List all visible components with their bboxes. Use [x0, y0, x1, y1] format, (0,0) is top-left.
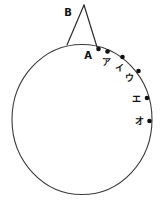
- point-A-dot: [96, 47, 101, 52]
- option-dot-e: [145, 96, 150, 101]
- triangle-right-side: [84, 5, 97, 47]
- apex-label: B: [64, 8, 72, 18]
- diagram-shapes: [0, 0, 168, 205]
- option-dot-o: [147, 119, 152, 124]
- option-dot-a: [105, 49, 110, 54]
- option-dot-u: [136, 69, 141, 74]
- contact-point-label: A: [84, 51, 92, 61]
- option-dot-i: [120, 55, 125, 60]
- option-label-a: ア: [102, 57, 111, 66]
- option-label-e: エ: [132, 94, 141, 103]
- circle-outline: [12, 45, 152, 195]
- option-label-o: オ: [135, 117, 144, 126]
- option-label-i: イ: [115, 64, 124, 73]
- option-label-u: ウ: [125, 74, 134, 83]
- geometry-diagram: B A ア イ ウ エ オ: [0, 0, 168, 205]
